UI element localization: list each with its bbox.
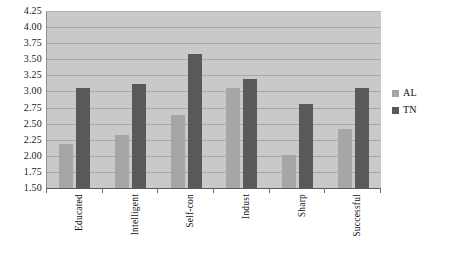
x-axis-label-cell: Educated: [46, 190, 102, 258]
bar-tn: [299, 104, 313, 188]
bar-tn: [188, 54, 202, 188]
x-axis-label: Educated: [74, 194, 84, 231]
bar-al: [338, 129, 352, 188]
bar-al: [171, 115, 185, 188]
bar-group: [47, 11, 103, 188]
legend-swatch-icon: [392, 107, 399, 114]
y-axis-tick-label: 3.00: [24, 86, 42, 96]
x-axis-tick: [380, 188, 381, 193]
bar-tn: [243, 79, 257, 188]
legend: ALTN: [392, 88, 417, 115]
y-axis-tick-label: 4.25: [24, 6, 42, 16]
bar-al: [115, 135, 129, 188]
bars-layer: [47, 11, 381, 188]
x-axis-label-cell: Sharp: [269, 190, 325, 258]
bar-tn: [76, 88, 90, 188]
plot-area: [46, 11, 381, 188]
x-axis-labels: EducatedIntelligentSelf-conIndustSharpSu…: [46, 190, 380, 258]
bar-al: [226, 88, 240, 188]
legend-label: AL: [403, 88, 417, 98]
y-axis-tick-label: 3.75: [24, 38, 42, 48]
y-axis: 4.254.003.753.503.253.002.752.502.252.00…: [0, 0, 42, 258]
bar-group: [214, 11, 270, 188]
legend-item-tn[interactable]: TN: [392, 105, 417, 115]
x-axis-label-cell: Intelligent: [102, 190, 158, 258]
y-axis-tick-label: 1.50: [24, 183, 42, 193]
x-axis-label-cell: Indust: [213, 190, 269, 258]
x-axis-label: Successful: [352, 194, 362, 237]
bar-group: [270, 11, 326, 188]
bar-al: [59, 144, 73, 188]
bar-group: [325, 11, 381, 188]
x-axis-label-cell: Self-con: [157, 190, 213, 258]
x-axis-label-cell: Successful: [324, 190, 380, 258]
legend-swatch-icon: [392, 90, 399, 97]
y-axis-tick-label: 3.50: [24, 54, 42, 64]
bar-al: [282, 155, 296, 188]
bar-group: [103, 11, 159, 188]
y-axis-tick-label: 2.00: [24, 151, 42, 161]
bar-tn: [132, 84, 146, 188]
bar-group: [158, 11, 214, 188]
y-axis-tick-label: 2.25: [24, 135, 42, 145]
bar-chart: 4.254.003.753.503.253.002.752.502.252.00…: [0, 0, 452, 258]
y-axis-tick-label: 2.75: [24, 103, 42, 113]
y-axis-tick-label: 1.75: [24, 167, 42, 177]
y-axis-tick-label: 2.50: [24, 119, 42, 129]
x-axis-label: Intelligent: [130, 194, 140, 235]
y-axis-tick-label: 3.25: [24, 70, 42, 80]
x-axis-label: Indust: [241, 194, 251, 219]
bar-tn: [355, 88, 369, 188]
x-axis-label: Sharp: [297, 194, 307, 217]
legend-label: TN: [403, 105, 417, 115]
legend-item-al[interactable]: AL: [392, 88, 417, 98]
x-axis-label: Self-con: [185, 194, 195, 228]
y-axis-tick-label: 4.00: [24, 22, 42, 32]
